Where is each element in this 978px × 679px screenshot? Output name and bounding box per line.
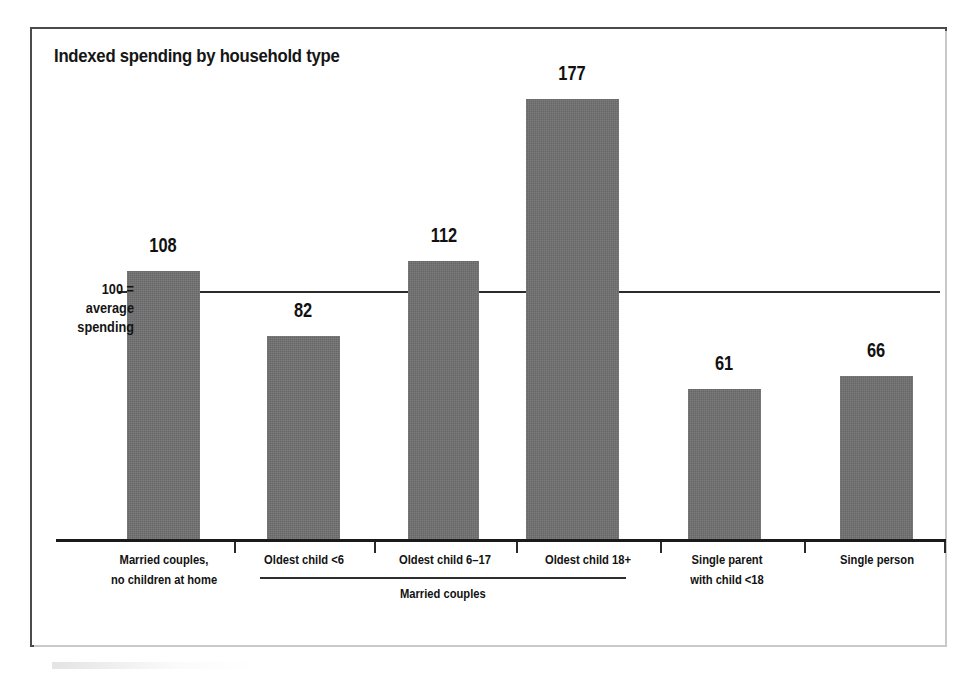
bar-single-parent-with-child[interactable] bbox=[688, 389, 761, 541]
group-bracket-line bbox=[260, 577, 626, 579]
bar-oldest-child-18-plus[interactable] bbox=[526, 99, 619, 541]
bar-single-person[interactable] bbox=[840, 376, 913, 541]
category-label-oldest-child-18-plus: Oldest child 18+ bbox=[514, 550, 662, 570]
category-label-line: with child <18 bbox=[664, 570, 790, 590]
category-label-line: no children at home bbox=[94, 570, 233, 590]
category-label-line: Oldest child 18+ bbox=[524, 550, 651, 570]
category-label-line: Single parent bbox=[664, 550, 790, 570]
scan-artifact bbox=[52, 662, 262, 669]
bar-oldest-child-6-17[interactable] bbox=[408, 261, 479, 541]
category-label-line: Oldest child 6–17 bbox=[382, 550, 508, 570]
category-label-single-person: Single person bbox=[806, 550, 948, 570]
axis-annotation-line-2: average bbox=[69, 298, 134, 317]
category-label-line: Single person bbox=[816, 550, 938, 570]
group-bracket-label-text: Married couples bbox=[400, 586, 486, 601]
axis-annotation-line-3: spending bbox=[69, 317, 134, 336]
bar-oldest-child-under-6[interactable] bbox=[267, 336, 340, 541]
axis-annotation: 100 = average spending bbox=[69, 279, 134, 336]
category-label-single-parent: Single parent with child <18 bbox=[654, 550, 800, 590]
category-label-line: Oldest child <6 bbox=[242, 550, 366, 570]
category-label-line: Married couples, bbox=[94, 550, 233, 570]
group-bracket-label: Married couples bbox=[260, 586, 626, 601]
category-label-oldest-child-6-17: Oldest child 6–17 bbox=[372, 550, 518, 570]
axis-annotation-line-1: 100 = bbox=[69, 279, 134, 298]
category-label-married-no-children: Married couples, no children at home bbox=[83, 550, 245, 590]
category-label-oldest-child-under-6: Oldest child <6 bbox=[232, 550, 376, 570]
bar-married-couples-no-children[interactable] bbox=[127, 271, 200, 541]
chart-title: Indexed spending by household type bbox=[54, 45, 340, 67]
